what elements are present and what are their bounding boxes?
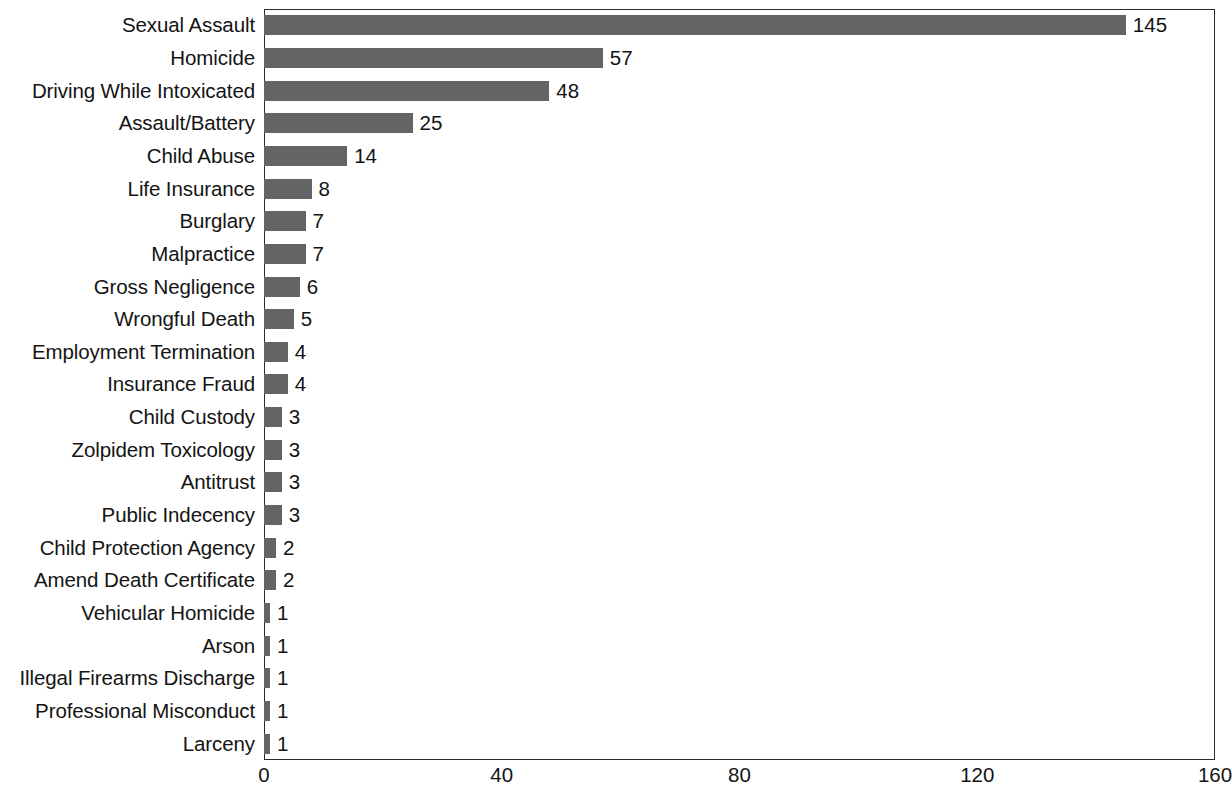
bar-row: Zolpidem Toxicology3 (0, 433, 1230, 466)
x-tick-label: 40 (490, 765, 513, 786)
category-label: Arson (202, 635, 255, 656)
bar (264, 603, 270, 623)
bar-row: Life Insurance8 (0, 172, 1230, 205)
x-tick-label: 80 (728, 765, 751, 786)
bar (264, 15, 1126, 35)
bar-row: Larceny1 (0, 727, 1230, 760)
bar-row: Vehicular Homicide1 (0, 597, 1230, 630)
x-tick-label: 120 (960, 765, 994, 786)
bar-value-label: 4 (295, 342, 306, 363)
category-label: Assault/Battery (119, 113, 255, 134)
bar-row: Homicide57 (0, 42, 1230, 75)
bar (264, 570, 276, 590)
category-label: Vehicular Homicide (81, 603, 255, 624)
category-label: Larceny (183, 733, 255, 754)
bar-row: Arson1 (0, 629, 1230, 662)
bar-row: Amend Death Certificate2 (0, 564, 1230, 597)
bar-value-label: 1 (277, 701, 288, 722)
bar (264, 734, 270, 754)
bar-row: Gross Negligence6 (0, 270, 1230, 303)
bar (264, 505, 282, 525)
category-label: Child Protection Agency (40, 537, 255, 558)
bar-value-label: 57 (610, 48, 633, 69)
bar (264, 407, 282, 427)
category-label: Public Indecency (102, 505, 255, 526)
bar-value-label: 5 (301, 309, 312, 330)
bar (264, 81, 549, 101)
bar-value-label: 25 (420, 113, 443, 134)
bar-value-label: 6 (307, 276, 318, 297)
bar (264, 668, 270, 688)
category-label: Child Abuse (147, 146, 255, 167)
bar-value-label: 7 (313, 244, 324, 265)
bar (264, 113, 413, 133)
bar-value-label: 1 (277, 635, 288, 656)
bar-row: Illegal Firearms Discharge1 (0, 662, 1230, 695)
bar-value-label: 3 (289, 472, 300, 493)
bar-value-label: 14 (354, 146, 377, 167)
bar-row: Malpractice7 (0, 238, 1230, 271)
bar-value-label: 8 (319, 178, 330, 199)
bar-row: Sexual Assault145 (0, 9, 1230, 42)
bar-row: Child Protection Agency2 (0, 531, 1230, 564)
bar-value-label: 2 (283, 537, 294, 558)
bar-row: Burglary7 (0, 205, 1230, 238)
bar (264, 146, 347, 166)
bar-value-label: 1 (277, 668, 288, 689)
category-label: Life Insurance (128, 178, 255, 199)
bar-row: Driving While Intoxicated48 (0, 74, 1230, 107)
bar-row: Professional Misconduct1 (0, 695, 1230, 728)
category-label: Gross Negligence (94, 276, 255, 297)
category-label: Illegal Firearms Discharge (19, 668, 255, 689)
category-label: Malpractice (151, 244, 255, 265)
bar (264, 342, 288, 362)
category-label: Homicide (170, 48, 255, 69)
bar-value-label: 3 (289, 505, 300, 526)
category-label: Driving While Intoxicated (32, 80, 255, 101)
bar-row: Assault/Battery25 (0, 107, 1230, 140)
bar (264, 636, 270, 656)
bar-row: Wrongful Death5 (0, 303, 1230, 336)
bar (264, 277, 300, 297)
x-tick-label: 160 (1198, 765, 1232, 786)
bar (264, 179, 312, 199)
bar (264, 472, 282, 492)
bar-row: Child Abuse14 (0, 140, 1230, 173)
bar-row: Employment Termination4 (0, 336, 1230, 369)
category-label: Wrongful Death (114, 309, 255, 330)
category-label: Burglary (179, 211, 255, 232)
bar (264, 440, 282, 460)
bar (264, 374, 288, 394)
bar-value-label: 2 (283, 570, 294, 591)
bar (264, 244, 306, 264)
bar-value-label: 3 (289, 440, 300, 461)
bar (264, 211, 306, 231)
category-label: Employment Termination (32, 342, 255, 363)
category-label: Insurance Fraud (107, 374, 255, 395)
category-label: Zolpidem Toxicology (72, 440, 255, 461)
bar-value-label: 1 (277, 733, 288, 754)
bar (264, 309, 294, 329)
category-label: Antitrust (181, 472, 255, 493)
bar (264, 701, 270, 721)
bar-value-label: 4 (295, 374, 306, 395)
bar-value-label: 7 (313, 211, 324, 232)
bar (264, 538, 276, 558)
bar-row: Public Indecency3 (0, 499, 1230, 532)
x-tick-label: 0 (258, 765, 269, 786)
bar (264, 48, 603, 68)
bar-row: Child Custody3 (0, 401, 1230, 434)
bar-rows-container: Sexual Assault145Homicide57Driving While… (0, 9, 1230, 760)
category-label: Professional Misconduct (35, 701, 255, 722)
bar-value-label: 1 (277, 603, 288, 624)
bar-value-label: 145 (1133, 15, 1167, 36)
category-label: Sexual Assault (122, 15, 255, 36)
bar-row: Antitrust3 (0, 466, 1230, 499)
bar-value-label: 48 (556, 80, 579, 101)
category-label: Amend Death Certificate (34, 570, 255, 591)
x-axis-tick-labels: 04080120160 (0, 765, 1230, 799)
category-label: Child Custody (129, 407, 255, 428)
bar-row: Insurance Fraud4 (0, 368, 1230, 401)
bar-value-label: 3 (289, 407, 300, 428)
